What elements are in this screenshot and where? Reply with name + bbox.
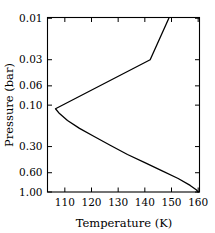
x-tick-label: 150 bbox=[161, 196, 181, 208]
x-axis-title: Temperature (K) bbox=[76, 216, 173, 230]
y-tick-label: 1.00 bbox=[19, 186, 42, 198]
y-tick-label: 0.06 bbox=[19, 79, 43, 91]
y-tick-label: 0.01 bbox=[19, 12, 42, 24]
y-tick-label: 0.60 bbox=[19, 166, 42, 178]
y-axis-title: Pressure (bar) bbox=[2, 63, 16, 147]
temperature-pressure-plot: 110120130140150160 0.010.030.060.100.300… bbox=[0, 0, 215, 233]
y-tick-label: 0.03 bbox=[19, 53, 42, 65]
y-tick-label: 0.10 bbox=[19, 99, 42, 111]
x-tick-label: 110 bbox=[55, 196, 75, 208]
x-tick-label: 160 bbox=[188, 196, 208, 208]
y-tick-label: 0.30 bbox=[19, 140, 42, 152]
chart-figure: 110120130140150160 0.010.030.060.100.300… bbox=[0, 0, 215, 233]
x-tick-label: 120 bbox=[81, 196, 101, 208]
x-tick-label: 130 bbox=[108, 196, 128, 208]
x-tick-label: 140 bbox=[135, 196, 155, 208]
